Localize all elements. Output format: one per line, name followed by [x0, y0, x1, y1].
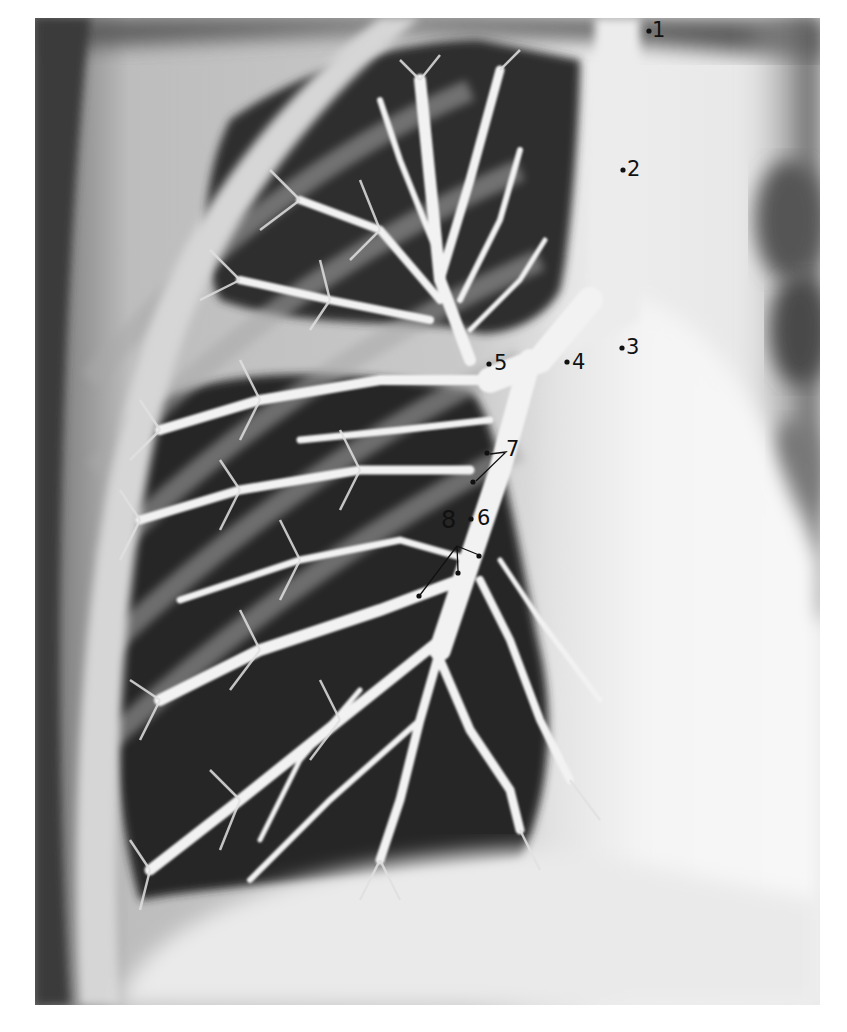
label-6-dot	[468, 516, 473, 521]
label-5: 5	[494, 353, 507, 374]
label-8: 8	[441, 508, 456, 532]
label-7-dot-b	[470, 479, 475, 484]
label-8-dot-b	[455, 570, 460, 575]
label-4: 4	[572, 352, 585, 373]
label-overlay: 1 2 3 4 5 6 7 8	[0, 0, 847, 1032]
label-7: 7	[506, 439, 519, 460]
label-2-dot	[620, 167, 625, 172]
label-7-dot-a	[484, 450, 489, 455]
label-3: 3	[626, 337, 639, 358]
label-3-dot	[619, 345, 624, 350]
label-1: 1	[652, 20, 665, 41]
label-1-dot	[646, 28, 651, 33]
label-6: 6	[477, 508, 490, 529]
label-4-dot	[564, 359, 569, 364]
label-8-leader	[420, 546, 479, 595]
label-5-dot	[486, 361, 491, 366]
label-2: 2	[627, 159, 640, 180]
label-7-leader	[476, 452, 506, 481]
